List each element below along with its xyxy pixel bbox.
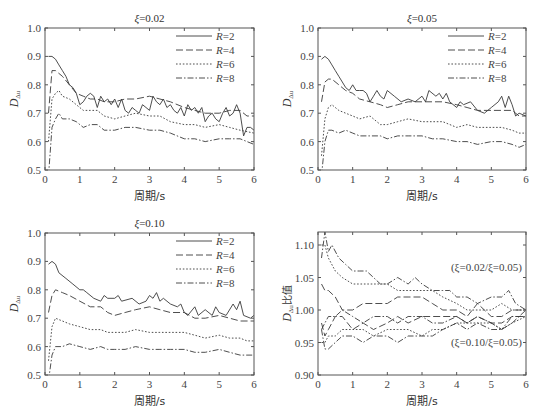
y-tick-label: 0.9 bbox=[27, 50, 41, 62]
y-axis-label: DΔu bbox=[280, 90, 295, 108]
y-tick-label: 0.5 bbox=[27, 164, 41, 176]
figure: 01234560.50.60.70.80.91.0ξ=0.02周期/sDΔuR=… bbox=[0, 0, 540, 418]
x-tick-label: 0 bbox=[42, 173, 48, 185]
x-axis-label: 周期/s bbox=[134, 190, 166, 203]
legend-entry: R=4 bbox=[215, 44, 235, 56]
y-tick-label: 0.7 bbox=[27, 312, 41, 324]
x-tick-label: 2 bbox=[112, 173, 118, 185]
series-line bbox=[49, 91, 255, 142]
y-tick-label: 0.5 bbox=[300, 164, 314, 176]
series-line bbox=[49, 318, 255, 361]
x-tick-label: 4 bbox=[454, 378, 460, 390]
x-tick-label: 2 bbox=[385, 378, 391, 390]
y-tick-label: 0.95 bbox=[295, 337, 315, 349]
y-axis-label: DΔu比值 bbox=[280, 285, 295, 323]
y-tick-label: 1.10 bbox=[295, 239, 315, 251]
y-tick-label: 0.9 bbox=[27, 255, 41, 267]
ratio-annotation: (ξ=0.10/ξ=0.05) bbox=[451, 336, 522, 349]
x-tick-label: 1 bbox=[350, 378, 356, 390]
legend-entry: R=8 bbox=[487, 72, 507, 84]
x-tick-label: 3 bbox=[419, 378, 425, 390]
x-tick-label: 0 bbox=[42, 378, 48, 390]
series-line bbox=[322, 284, 527, 317]
ratio-annotation: (ξ=0.02/ξ=0.05) bbox=[451, 261, 522, 274]
legend-entry: R=6 bbox=[215, 263, 235, 275]
y-tick-label: 0.8 bbox=[27, 79, 41, 91]
y-tick-label: 1.0 bbox=[300, 22, 314, 34]
chart-panel-3: 01234560.50.60.70.80.91.0ξ=0.10周期/sDΔuR=… bbox=[7, 217, 257, 408]
chart-panel-2: 01234560.50.60.70.80.91.0ξ=0.05周期/sDΔuR=… bbox=[280, 12, 529, 203]
chart-panel-1: 01234560.50.60.70.80.91.0ξ=0.02周期/sDΔuR=… bbox=[7, 12, 257, 203]
series-line bbox=[322, 105, 527, 156]
series-line bbox=[322, 310, 527, 330]
y-tick-label: 0.7 bbox=[300, 107, 314, 119]
series-line bbox=[49, 290, 255, 321]
y-tick-label: 0.6 bbox=[27, 136, 41, 148]
x-tick-label: 4 bbox=[182, 173, 188, 185]
legend-entry: R=4 bbox=[487, 44, 507, 56]
x-tick-label: 0 bbox=[315, 378, 321, 390]
legend-entry: R=4 bbox=[215, 249, 235, 261]
series-line bbox=[322, 245, 527, 310]
series-line bbox=[322, 317, 527, 337]
x-tick-label: 1 bbox=[77, 173, 83, 185]
chart-title: ξ=0.02 bbox=[134, 12, 164, 25]
y-tick-label: 1.0 bbox=[27, 22, 41, 34]
legend-entry: R=2 bbox=[215, 30, 234, 42]
y-tick-label: 0.9 bbox=[300, 50, 314, 62]
x-tick-label: 4 bbox=[182, 378, 188, 390]
y-tick-label: 0.6 bbox=[300, 136, 314, 148]
legend-entry: R=6 bbox=[215, 58, 235, 70]
series-line bbox=[49, 113, 255, 176]
legend: R=2R=4R=6R=8 bbox=[448, 30, 507, 84]
legend-entry: R=6 bbox=[487, 58, 507, 70]
legend: R=2R=4R=6R=8 bbox=[176, 30, 235, 84]
legend-entry: R=2 bbox=[487, 30, 506, 42]
x-tick-label: 6 bbox=[523, 378, 529, 390]
x-axis-label: 周期/s bbox=[406, 190, 438, 203]
x-tick-label: 1 bbox=[350, 173, 356, 185]
chart-panel-4: 01234560.900.951.001.051.10周期/sDΔu比值(ξ=0… bbox=[280, 232, 529, 408]
legend-entry: R=8 bbox=[215, 72, 235, 84]
plot-frame bbox=[318, 232, 526, 375]
y-tick-label: 0.8 bbox=[300, 79, 314, 91]
x-tick-label: 3 bbox=[419, 173, 425, 185]
x-tick-label: 6 bbox=[523, 173, 529, 185]
y-tick-label: 1.0 bbox=[27, 227, 41, 239]
series-line bbox=[322, 79, 527, 116]
x-tick-label: 0 bbox=[315, 173, 321, 185]
x-tick-label: 5 bbox=[489, 173, 495, 185]
x-tick-label: 5 bbox=[216, 173, 222, 185]
y-tick-label: 1.05 bbox=[295, 272, 315, 284]
y-tick-label: 0.6 bbox=[27, 341, 41, 353]
series-group bbox=[322, 232, 527, 349]
y-tick-label: 0.8 bbox=[27, 284, 41, 296]
x-tick-label: 6 bbox=[251, 378, 257, 390]
x-tick-label: 1 bbox=[77, 378, 83, 390]
x-tick-label: 3 bbox=[147, 173, 153, 185]
x-tick-label: 5 bbox=[216, 378, 222, 390]
legend: R=2R=4R=6R=8 bbox=[176, 235, 235, 289]
x-tick-label: 2 bbox=[385, 173, 391, 185]
y-tick-label: 0.90 bbox=[295, 369, 315, 381]
legend-entry: R=2 bbox=[215, 235, 234, 247]
y-tick-label: 1.00 bbox=[295, 304, 315, 316]
chart-title: ξ=0.05 bbox=[407, 12, 438, 25]
x-axis-label: 周期/s bbox=[134, 395, 166, 408]
y-axis-label: DΔu bbox=[7, 295, 22, 313]
x-tick-label: 2 bbox=[112, 378, 118, 390]
x-tick-label: 4 bbox=[454, 173, 460, 185]
y-axis-label: DΔu bbox=[7, 90, 22, 108]
chart-title: ξ=0.10 bbox=[134, 217, 165, 230]
y-tick-label: 0.5 bbox=[27, 369, 41, 381]
x-tick-label: 6 bbox=[251, 173, 257, 185]
x-tick-label: 5 bbox=[489, 378, 495, 390]
x-axis-label: 周期/s bbox=[406, 395, 438, 408]
legend-entry: R=8 bbox=[215, 277, 235, 289]
x-tick-label: 3 bbox=[147, 378, 153, 390]
y-tick-label: 0.7 bbox=[27, 107, 41, 119]
